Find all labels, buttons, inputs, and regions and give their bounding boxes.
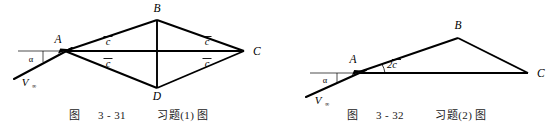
vertex-label-D: D <box>152 90 162 102</box>
alpha-label: α <box>29 54 34 64</box>
c-bar-upper-left-text: c <box>106 36 111 47</box>
figure-3-31-drawing: A B C D c c c c α <box>0 0 278 106</box>
two-c-bar-text: 2c <box>387 59 397 70</box>
edge-C-D <box>157 51 244 88</box>
edge-A-B <box>359 38 458 72</box>
vertex-label-B: B <box>454 19 461 31</box>
velocity-label-text: V <box>22 76 30 88</box>
figure-3-32-drawing: A B C 2c α V ∞ <box>278 0 556 106</box>
velocity-label-subscript: ∞ <box>32 83 36 89</box>
caption-prefix: 图 <box>69 109 80 121</box>
two-c-bar-label: 2c <box>387 59 401 70</box>
edge-A-B <box>65 20 157 51</box>
velocity-ray <box>306 70 366 97</box>
figure-3-31: A B C D c c c c α <box>0 0 278 134</box>
velocity-label: V ∞ <box>22 76 37 89</box>
vertex-label-C: C <box>537 67 545 79</box>
vertex-label-A: A <box>53 33 62 45</box>
vertex-label-C: C <box>253 45 261 57</box>
caption-title: 习题(2) 图 <box>435 109 486 121</box>
figure-sheet: A B C D c c c c α <box>0 0 556 134</box>
c-bar-lower-right-text: c <box>205 58 210 69</box>
caption-number: 3 - 31 <box>98 109 126 121</box>
edge-B-C <box>157 20 244 51</box>
c-bar-upper-right-text: c <box>205 36 210 47</box>
caption-number: 3 - 32 <box>376 109 404 121</box>
alpha-label: α <box>323 75 328 85</box>
figure-3-32-caption: 图 3 - 32 习题(2) 图 <box>278 106 556 122</box>
edge-B-C <box>458 38 528 73</box>
vertex-label-A: A <box>348 53 357 65</box>
c-bar-lower-right: c <box>203 58 212 69</box>
c-bar-lower-left: c <box>104 58 113 69</box>
velocity-label: V ∞ <box>315 94 330 106</box>
figure-3-31-caption: 图 3 - 31 习题(1) 图 <box>0 106 278 122</box>
c-bar-lower-left-text: c <box>106 58 111 69</box>
caption-title: 习题(1) 图 <box>157 109 208 121</box>
edge-D-A <box>65 51 157 88</box>
c-bar-upper-left: c <box>104 36 113 47</box>
caption-prefix: 图 <box>347 109 358 121</box>
velocity-label-text: V <box>315 94 323 106</box>
vertex-label-B: B <box>153 2 160 14</box>
c-bar-upper-right: c <box>203 36 212 47</box>
angle-arc-2c <box>382 64 385 73</box>
figure-3-32: A B C 2c α V ∞ 图 3 - 32 习题(2) 图 <box>278 0 556 134</box>
